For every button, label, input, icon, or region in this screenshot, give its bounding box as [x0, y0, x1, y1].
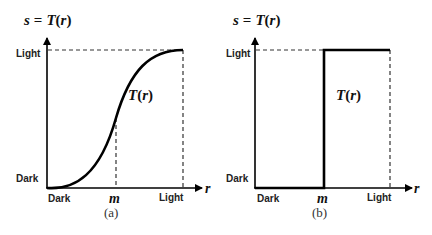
- caption-a: (a): [104, 205, 118, 220]
- x-axis-label: r: [205, 181, 211, 196]
- x-tick-dark: Dark: [257, 193, 280, 204]
- y-tick-light: Light: [226, 48, 251, 59]
- y-tick-dark: Dark: [16, 173, 39, 184]
- x-tick-light: Light: [159, 192, 184, 203]
- x-axis-label: r: [414, 181, 420, 196]
- transform-curve: [255, 50, 390, 188]
- x-tick-dark: Dark: [48, 193, 71, 204]
- panel-b: s=T(r) Light Dark Dark m Light r T(r) (b…: [226, 12, 420, 220]
- diagram-canvas: s=T(r) Light Dark Dark m Light r T(r) (a…: [0, 0, 432, 235]
- curve-label: T(r): [128, 87, 153, 104]
- panel-a: s=T(r) Light Dark Dark m Light r T(r) (a…: [16, 12, 211, 220]
- y-axis-title: s=T(r): [23, 12, 71, 29]
- y-tick-light: Light: [16, 48, 41, 59]
- y-axis-title: s=T(r): [232, 12, 280, 29]
- x-tick-light: Light: [367, 192, 392, 203]
- caption-b: (b): [312, 205, 327, 220]
- curve-label: T(r): [336, 87, 361, 104]
- y-tick-dark: Dark: [226, 173, 249, 184]
- x-tick-m: m: [317, 191, 328, 206]
- x-tick-m: m: [109, 191, 120, 206]
- transform-curve: [47, 50, 183, 188]
